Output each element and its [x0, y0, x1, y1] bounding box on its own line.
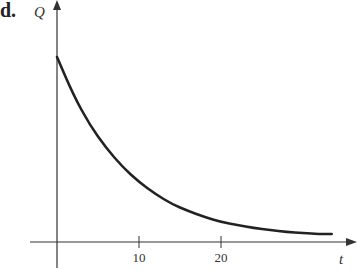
y-axis-label: Q [34, 4, 45, 20]
x-axis-arrow-icon [346, 238, 357, 246]
decay-curve [57, 57, 332, 234]
y-axis-arrow-icon [53, 0, 61, 10]
chart-canvas: d. Q 10 20 t [0, 0, 357, 270]
x-axis-label: t [339, 251, 344, 267]
panel-label: d. [0, 0, 16, 21]
x-tick-label-20: 20 [215, 250, 228, 265]
x-tick-label-10: 10 [133, 250, 146, 265]
